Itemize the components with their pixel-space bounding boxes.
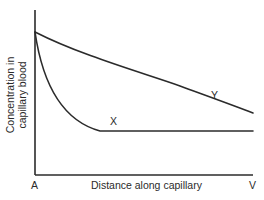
y-axis-title: Concentration in capillary blood — [4, 40, 28, 150]
y-axis-title-line2: capillary blood — [16, 40, 28, 150]
series-y-label: Y — [211, 90, 218, 101]
series-y-line — [35, 32, 253, 113]
x-axis-title: Distance along capillary — [91, 180, 202, 191]
x-end-label: V — [249, 180, 256, 191]
chart-canvas — [0, 0, 264, 200]
y-axis-title-line1: Concentration in — [4, 40, 16, 150]
x-start-label: A — [31, 180, 38, 191]
series-x-label: X — [110, 116, 117, 127]
